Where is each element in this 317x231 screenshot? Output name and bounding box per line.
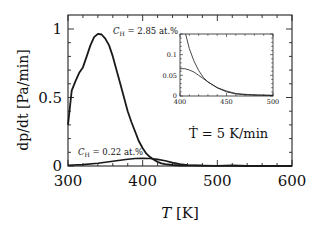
chart: 40045050000.050.1 30040050060000.51T [K]… (0, 0, 317, 231)
x-tick-label: 400 (128, 172, 157, 190)
y-axis-label: dp/dt [Pa/min] (15, 49, 31, 150)
y-tick-label: 1 (52, 20, 62, 38)
inset-x-tick-label: 500 (267, 98, 279, 106)
annotation-concentration: CH = 2.85 at.% (113, 26, 178, 37)
x-tick-label: 600 (278, 172, 307, 190)
inset-x-tick-label: 450 (220, 98, 232, 106)
y-tick-label: 0 (52, 157, 62, 175)
series-ch-0-22 (68, 158, 292, 166)
inset-y-tick-label: 0 (173, 92, 177, 100)
x-tick-label: 500 (203, 172, 232, 190)
annotation-concentration: CH = 0.22 at.% (78, 147, 143, 158)
inset-y-tick-label: 0.1 (167, 51, 177, 59)
y-tick-label: 0.5 (38, 89, 62, 107)
inset-frame (180, 34, 273, 96)
annotation-heating-rate: Ṫ = 5 K/min (189, 125, 269, 141)
inset-plot: 40045050000.050.1 (163, 34, 280, 106)
inset-y-tick-label: 0.05 (163, 72, 177, 80)
x-axis-label: T [K] (161, 204, 199, 222)
